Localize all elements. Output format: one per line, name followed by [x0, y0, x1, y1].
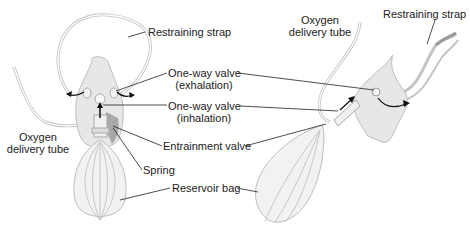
label-entrainment-valve: Entrainment valve	[163, 140, 251, 152]
label-oxygen-tube-front: Oxygen delivery tube	[5, 131, 71, 155]
label-restraining-strap-front: Restraining strap	[148, 26, 231, 38]
label-oxygen-tube-side: Oxygen delivery tube	[285, 14, 355, 38]
label-inhalation-valve: One-way valve (inhalation)	[168, 100, 240, 124]
label-exhalation-valve-line2: (exhalation)	[168, 79, 240, 91]
label-exhalation-valve: One-way valve (exhalation)	[168, 67, 240, 91]
label-restraining-strap-side: Restraining strap	[383, 8, 466, 20]
side-view-mask	[255, 22, 458, 222]
label-oxygen-tube-side-line2: delivery tube	[285, 26, 355, 38]
label-oxygen-tube-front-line1: Oxygen	[5, 131, 71, 143]
label-oxygen-tube-side-line1: Oxygen	[285, 14, 355, 26]
label-inhalation-valve-line2: (inhalation)	[168, 112, 240, 124]
label-exhalation-valve-line1: One-way valve	[168, 67, 240, 79]
label-oxygen-tube-front-line2: delivery tube	[5, 143, 71, 155]
front-view-mask	[14, 15, 150, 220]
label-spring: Spring	[143, 164, 175, 176]
label-reservoir-bag: Reservoir bag	[172, 182, 240, 194]
label-inhalation-valve-line1: One-way valve	[168, 100, 240, 112]
